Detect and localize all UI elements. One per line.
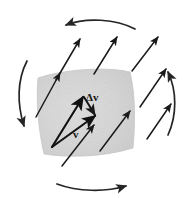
field-arrow-3 [132,37,158,71]
circulation-arc-bottom [57,184,126,190]
vorticity-diagram: Δv v [0,0,194,198]
circulation-arc-left [19,61,27,126]
shaded-fluid-element [37,69,134,156]
delta-v-label: Δv [86,92,98,103]
field-arrow-5 [140,69,166,107]
field-arrow-6 [147,104,171,139]
v-label: v [73,129,79,140]
field-arrow-2 [94,37,117,74]
circulation-arc-top [66,20,135,29]
